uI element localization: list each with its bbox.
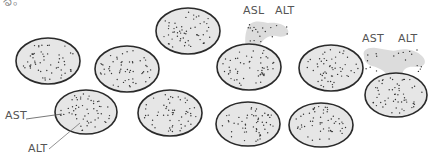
enzyme-dot <box>253 27 254 28</box>
enzyme-dot <box>420 68 421 69</box>
enzyme-dot <box>252 30 253 31</box>
hepatocyte <box>95 46 159 92</box>
enzyme-dot <box>403 52 404 53</box>
corner-text-fragment: る。 <box>2 0 24 7</box>
diagram-liver-cells: る。 ASL ALT AST ALT AST ALT <box>0 0 432 158</box>
enzyme-dot <box>270 27 271 28</box>
enzyme-dot <box>249 24 250 25</box>
enzyme-dot <box>376 53 377 54</box>
enzyme-dot <box>421 66 422 67</box>
hepatocyte <box>138 90 202 136</box>
enzyme-dot <box>260 41 261 42</box>
label-leak1-asl: ASL <box>243 5 264 16</box>
enzyme-dot <box>255 29 256 30</box>
cell-diagram-canvas <box>0 0 432 158</box>
enzyme-dot <box>248 27 249 28</box>
hepatocyte <box>156 8 220 54</box>
enzyme-dot <box>376 70 377 71</box>
hepatocyte <box>16 38 80 84</box>
enzyme-dot <box>416 49 417 50</box>
enzyme-dot <box>253 40 254 41</box>
enzyme-dot <box>286 26 287 27</box>
hepatocyte <box>55 90 117 134</box>
label-leak2-ast: AST <box>362 33 384 44</box>
hepatocyte <box>216 102 280 146</box>
label-inside-ast: AST <box>5 110 27 121</box>
enzyme-dot <box>398 53 399 54</box>
enzyme-dot <box>287 33 288 34</box>
label-leak1-alt: ALT <box>275 5 294 16</box>
label-inside-alt: ALT <box>28 143 47 154</box>
enzyme-dot <box>365 68 366 69</box>
enzyme-dot <box>409 51 410 52</box>
hepatocyte-leaking <box>365 73 427 117</box>
hepatocyte-leaking <box>217 44 281 90</box>
label-leak2-alt: ALT <box>398 33 417 44</box>
enzyme-dot <box>257 31 258 32</box>
enzyme-dot <box>259 36 260 37</box>
enzyme-dot <box>250 27 251 28</box>
enzyme-dot <box>393 55 394 56</box>
enzyme-dot <box>250 40 251 41</box>
enzyme-dot <box>417 65 418 66</box>
enzyme-dot <box>418 71 419 72</box>
enzyme-dot <box>411 54 412 55</box>
enzyme-dot <box>367 60 368 61</box>
enzyme-dot <box>376 56 377 57</box>
enzyme-dot <box>262 27 263 28</box>
enzyme-dot <box>265 31 266 32</box>
enzyme-dot <box>405 59 406 60</box>
enzyme-dot <box>276 25 277 26</box>
enzyme-dot <box>272 36 273 37</box>
enzyme-dot <box>367 54 368 55</box>
hepatocyte <box>299 45 363 91</box>
hepatocyte <box>289 103 353 147</box>
enzyme-dot <box>370 67 371 68</box>
